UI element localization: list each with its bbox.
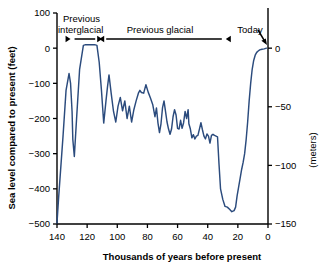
sea-level-line-chart: 140120100806040200 1000−100−200−300−400−… [0,0,325,266]
annotation-previous-glacial: Previous glacial [127,24,194,35]
x-tick-label: 60 [172,231,183,242]
y-tick-label: −300 [29,148,50,159]
x-axis-tick-labels: 140120100806040200 [49,231,271,242]
x-tick-label: 100 [109,231,125,242]
y-tick-label-right: −150 [275,218,296,229]
y-tick-label-right: −50 [275,101,291,112]
x-tick-label: 0 [265,231,270,242]
annotation-previous-interglacial-line1: Previous [63,13,100,24]
x-tick-label: 40 [202,231,213,242]
x-axis-title: Thousands of years before present [103,251,262,262]
y-tick-label: −200 [29,113,50,124]
arrow-previous-glacial [97,36,231,42]
y-tick-label: −500 [29,218,50,229]
sea-level-chart-figure: 140120100806040200 1000−100−200−300−400−… [0,0,325,266]
chart-axes [53,8,272,228]
y-tick-label-right: −100 [275,160,296,171]
x-tick-label: 20 [233,231,244,242]
y-axis-right-tick-labels: 0−50−100−150 [275,43,296,230]
x-tick-label: 140 [49,231,65,242]
x-tick-label: 120 [79,231,95,242]
data-series-group [57,45,266,223]
y-tick-label: −400 [29,183,50,194]
sea-level-series-line [57,45,266,223]
y-axis-title: Sea level compared to present (feet) [6,46,17,209]
y-tick-label: 100 [34,7,50,18]
y-axis-tick-labels: 1000−100−200−300−400−500 [29,7,50,229]
annotation-previous-interglacial-line2: interglacial [58,24,103,35]
y-tick-label: 0 [45,43,50,54]
annotation-today: Today [237,24,263,35]
y-tick-label: −100 [29,78,50,89]
x-tick-label: 80 [142,231,153,242]
y-tick-label-right: 0 [275,43,280,54]
y-axis-right-title: (meters) [307,132,318,167]
